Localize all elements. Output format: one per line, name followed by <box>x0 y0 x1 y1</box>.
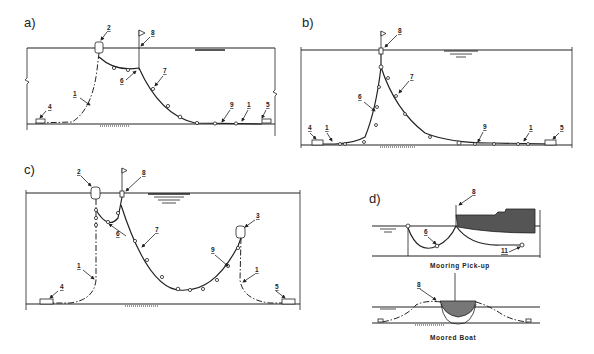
callout-8: 8 <box>142 169 146 176</box>
callout-2: 2 <box>107 24 111 31</box>
callout-11: 11 <box>501 247 508 254</box>
callout-4: 4 <box>308 124 312 131</box>
callout-7: 7 <box>410 73 414 80</box>
mooring-line-right <box>476 302 528 322</box>
callout-6: 6 <box>358 93 362 100</box>
callout-1: 1 <box>73 90 77 97</box>
pendant-6 <box>408 226 456 248</box>
callout-8: 8 <box>417 281 421 288</box>
panel-c-label: c) <box>24 162 35 177</box>
callout-8: 8 <box>151 29 155 36</box>
right-boundary-break <box>273 48 277 136</box>
callout-1: 1 <box>77 262 81 269</box>
panel-d-label: d) <box>369 191 381 206</box>
buoy-3-icon <box>236 226 245 238</box>
callout-7: 7 <box>155 226 159 233</box>
pendant-6 <box>96 197 122 223</box>
moored-boat-caption: Moored Boat <box>430 334 477 341</box>
panel-b-label: b) <box>302 15 314 30</box>
boat-hull-icon <box>456 209 535 233</box>
line-7 <box>139 68 262 124</box>
pickup-buoy-icon <box>95 42 103 53</box>
callout-9: 9 <box>211 246 215 253</box>
mooring-pickup-caption: Mooring Pick-up <box>430 262 490 270</box>
anchor-5-icon <box>282 299 295 304</box>
ground-chain-1 <box>45 199 96 303</box>
callout-1b: 1 <box>529 124 533 131</box>
water-level-icon <box>444 51 478 57</box>
panel-c: c) 2 8 6 7 <box>24 162 300 310</box>
callout-1b: 1 <box>247 101 251 108</box>
callout-3: 3 <box>256 212 260 219</box>
pendant-6 <box>99 57 139 69</box>
anchor-4-icon <box>312 140 323 145</box>
callout-9: 9 <box>483 123 487 130</box>
line-7 <box>381 67 556 144</box>
callout-7: 7 <box>163 67 167 74</box>
callout-8: 8 <box>472 188 476 195</box>
pickup-buoy-icon <box>91 187 100 199</box>
anchor-4-icon <box>40 299 53 304</box>
callout-5: 5 <box>275 283 279 290</box>
marker-buoy-icon <box>120 191 124 197</box>
callout-8: 8 <box>398 27 402 34</box>
marker-buoy-icon <box>379 48 383 54</box>
left-boundary-break <box>25 48 29 130</box>
callout-4: 4 <box>60 283 64 290</box>
callout-5: 5 <box>266 101 270 108</box>
panel-a: a) 2 8 6 7 1 4 <box>24 15 277 136</box>
callout-4: 4 <box>48 103 52 110</box>
callout-9: 9 <box>230 101 234 108</box>
callout-1: 1 <box>325 124 329 131</box>
moored-boat-figure: 8 Moored Boat <box>372 273 540 341</box>
boat-hull-icon <box>440 301 476 317</box>
callout-1b: 1 <box>255 266 259 273</box>
flag-icon <box>139 30 145 36</box>
panel-b: b) 8 7 6 4 1 9 <box>301 15 572 148</box>
panel-d: d) 8 6 11 Mooring Pick-up <box>369 188 540 341</box>
mooring-pickup-figure: 8 6 11 Mooring Pick-up <box>372 188 540 270</box>
callout-6: 6 <box>120 77 124 84</box>
mooring-diagram: a) 2 8 6 7 1 4 <box>0 0 594 354</box>
mooring-line-left <box>382 301 441 322</box>
callout-6: 6 <box>424 228 428 235</box>
callout-2: 2 <box>77 168 81 175</box>
line-7-9 <box>121 205 241 290</box>
callout-5: 5 <box>560 124 564 131</box>
water-level-icon <box>148 194 190 203</box>
flag-icon <box>122 168 127 173</box>
anchor-4-icon <box>36 119 45 123</box>
panel-a-label: a) <box>24 15 36 30</box>
anchor-5-icon <box>262 119 271 123</box>
anchor-5-icon <box>545 140 556 145</box>
flag-icon <box>381 31 386 36</box>
